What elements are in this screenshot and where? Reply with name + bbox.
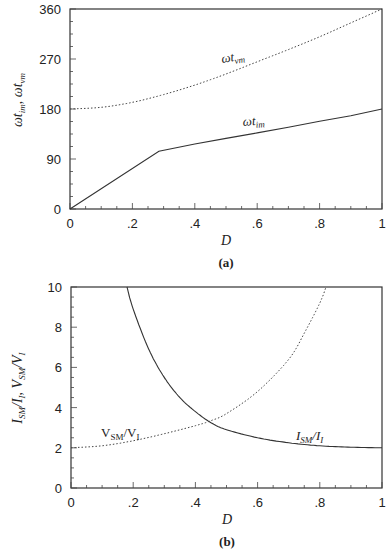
y-tick-label: 6 <box>55 360 62 375</box>
y-tick-label: 270 <box>39 52 61 67</box>
x-tick-label: .6 <box>252 216 263 231</box>
x-tick-label: .8 <box>314 495 325 510</box>
label-wt-im: ωtim <box>242 112 266 131</box>
chart-panel-a: 0.2.4.6.81 090180270360 ωtvm ωtim D (a) … <box>10 2 386 270</box>
y-tick-label: 4 <box>55 401 62 416</box>
y-tick-label: 0 <box>54 202 61 217</box>
label-wt-vm: ωtvm <box>220 47 246 68</box>
x-tick-label: 0 <box>67 495 74 510</box>
x-tick-label: 1 <box>378 495 385 510</box>
x-tick-label: .2 <box>127 216 138 231</box>
x-tick-label: .4 <box>190 495 201 510</box>
curve-wt-im <box>70 109 382 209</box>
caption-b: (b) <box>219 534 235 549</box>
caption-a: (a) <box>218 255 233 270</box>
curve-vsm-vi <box>71 287 326 448</box>
x-tick-label: .8 <box>314 216 325 231</box>
figure: 0.2.4.6.81 090180270360 ωtvm ωtim D (a) … <box>0 0 391 553</box>
x-tick-label: .6 <box>252 495 263 510</box>
x-ticks-b: 0.2.4.6.81 <box>67 482 385 510</box>
plot-frame-b <box>71 287 382 488</box>
x-tick-label: 0 <box>66 216 73 231</box>
y-tick-label: 10 <box>48 280 62 295</box>
y-tick-label: 180 <box>39 102 61 117</box>
y-tick-label: 2 <box>55 441 62 456</box>
x-tick-label: .4 <box>189 216 200 231</box>
y-ticks-b: 0246810 <box>48 280 77 496</box>
y-tick-label: 8 <box>55 320 62 335</box>
y-axis-label-b: ISM/II, VSM/VI <box>10 351 27 424</box>
x-axis-label-a: D <box>220 233 231 248</box>
x-tick-label: 1 <box>378 216 385 231</box>
x-ticks-a: 0.2.4.6.81 <box>66 203 385 231</box>
chart-panel-b: 0.2.4.6.81 0246810 VSM/VI ISM/II D (b) I… <box>10 280 386 549</box>
x-axis-label-b: D <box>221 512 232 527</box>
y-tick-label: 0 <box>55 481 62 496</box>
y-tick-label: 360 <box>39 2 61 17</box>
y-axis-label-a: ωtim, ωtvm <box>10 72 27 127</box>
curve-ism-ii <box>127 287 382 448</box>
label-vsm-vi: VSM/VI <box>101 425 139 442</box>
y-tick-label: 90 <box>47 152 61 167</box>
x-tick-label: .2 <box>128 495 139 510</box>
label-ism-ii: ISM/II <box>295 428 324 445</box>
